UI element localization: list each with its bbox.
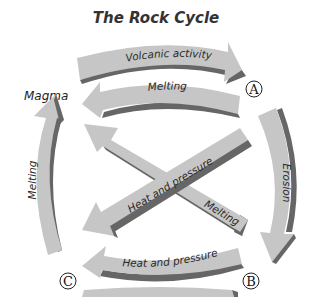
node-b-label: B xyxy=(246,274,256,289)
arrow-erosion: Erosion xyxy=(258,108,297,264)
node-magma-label: Magma xyxy=(24,89,68,103)
node-b: B xyxy=(243,273,259,289)
node-a: A xyxy=(246,81,262,97)
arrow-label-melting-top: Melting xyxy=(147,79,187,92)
arrow-bottom-partial xyxy=(82,287,238,297)
diagram-title: The Rock Cycle xyxy=(93,9,220,27)
rock-cycle-diagram: The Rock Cycle Volcanic activity Melting… xyxy=(0,0,313,297)
arrow-label-melting-left: Melting xyxy=(26,160,38,199)
node-c: C xyxy=(60,273,76,289)
node-c-label: C xyxy=(63,274,73,289)
arrow-label-erosion: Erosion xyxy=(281,164,293,203)
arrow-melting-left: Melting xyxy=(26,94,64,255)
arrow-heat-pressure-bottom: Heat and pressure xyxy=(82,246,244,281)
arrow-volcanic-activity: Volcanic activity xyxy=(77,42,246,84)
node-a-label: A xyxy=(248,82,259,97)
arrow-melting-top: Melting xyxy=(82,79,240,118)
